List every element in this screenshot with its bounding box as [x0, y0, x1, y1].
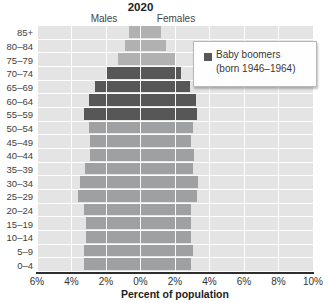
- age-label-75–79: 75–79: [0, 55, 33, 66]
- age-label-80–84: 80–84: [0, 41, 33, 52]
- age-label-5–9: 5–9: [0, 246, 33, 257]
- female-bar-20–24: [141, 204, 192, 216]
- female-bar-65–69: [141, 81, 190, 93]
- age-label-0–4: 0–4: [0, 260, 33, 271]
- age-label-35–39: 35–39: [0, 164, 33, 175]
- male-bar-10–14: [86, 231, 140, 243]
- male-bar-40–44: [90, 149, 141, 161]
- male-bar-45–49: [90, 135, 140, 147]
- age-label-70–74: 70–74: [0, 68, 33, 79]
- x-axis-line: [36, 272, 314, 274]
- male-bar-50–54: [89, 122, 141, 134]
- age-label-15–19: 15–19: [0, 219, 33, 230]
- male-bar-15–19: [86, 217, 140, 229]
- age-label-20–24: 20–24: [0, 205, 33, 216]
- females-column-header: Females: [157, 13, 195, 24]
- female-bar-45–49: [141, 135, 191, 147]
- female-bar-15–19: [141, 217, 192, 229]
- x-tick-label-8: 10%: [303, 276, 323, 287]
- male-bar-20–24: [84, 204, 141, 216]
- male-bar-65–69: [95, 81, 141, 93]
- x-tick-label-2: 2%: [99, 276, 113, 287]
- age-label-45–49: 45–49: [0, 137, 33, 148]
- female-bar-30–34: [141, 176, 199, 188]
- gridline-vertical: [175, 26, 176, 272]
- gridline-vertical: [37, 26, 38, 272]
- x-tick-label-0: 6%: [30, 276, 44, 287]
- age-label-85+: 85+: [0, 27, 33, 38]
- x-tick-label-4: 2%: [168, 276, 182, 287]
- female-bar-60–64: [141, 94, 196, 106]
- age-label-60–64: 60–64: [0, 96, 33, 107]
- age-label-30–34: 30–34: [0, 178, 33, 189]
- legend-box: Baby boomers (born 1946–1964): [193, 41, 317, 87]
- legend-label-line2: (born 1946–1964): [216, 63, 296, 74]
- male-bar-25–29: [78, 190, 140, 202]
- female-bar-0–4: [141, 258, 191, 270]
- x-tick-label-5: 4%: [202, 276, 216, 287]
- gridline-vertical: [71, 26, 72, 272]
- male-bar-35–39: [85, 163, 140, 175]
- age-label-10–14: 10–14: [0, 232, 33, 243]
- male-bar-55–59: [84, 108, 140, 120]
- male-bar-0–4: [84, 258, 141, 270]
- age-label-25–29: 25–29: [0, 191, 33, 202]
- legend-label-line1: Baby boomers: [216, 49, 280, 60]
- chart-title: 2020: [0, 1, 281, 13]
- female-bar-5–9: [141, 245, 194, 257]
- gridline-vertical: [140, 26, 141, 272]
- male-bar-60–64: [89, 94, 141, 106]
- x-axis-title: Percent of population: [37, 288, 313, 300]
- x-tick-label-3: 0%: [133, 276, 147, 287]
- baby-boomers-swatch-icon: [204, 53, 212, 61]
- age-label-55–59: 55–59: [0, 109, 33, 120]
- male-bar-70–74: [106, 67, 141, 79]
- male-bar-30–34: [80, 176, 140, 188]
- x-tick-label-1: 4%: [64, 276, 78, 287]
- female-bar-85+: [141, 26, 162, 38]
- age-label-65–69: 65–69: [0, 82, 33, 93]
- male-bar-80–84: [125, 40, 141, 52]
- male-bar-5–9: [84, 245, 141, 257]
- female-bar-80–84: [141, 40, 167, 52]
- gridline-vertical: [106, 26, 107, 272]
- female-bar-50–54: [141, 122, 194, 134]
- x-tick-label-7: 8%: [271, 276, 285, 287]
- male-bar-75–79: [118, 53, 140, 65]
- female-bar-25–29: [141, 190, 198, 202]
- age-label-40–44: 40–44: [0, 150, 33, 161]
- age-label-50–54: 50–54: [0, 123, 33, 134]
- female-bar-75–79: [141, 53, 176, 65]
- x-tick-label-6: 6%: [237, 276, 251, 287]
- female-bar-40–44: [141, 149, 194, 161]
- female-bar-55–59: [141, 108, 198, 120]
- female-bar-10–14: [141, 231, 191, 243]
- males-column-header: Males: [91, 13, 118, 24]
- female-bar-35–39: [141, 163, 194, 175]
- male-bar-85+: [129, 26, 140, 38]
